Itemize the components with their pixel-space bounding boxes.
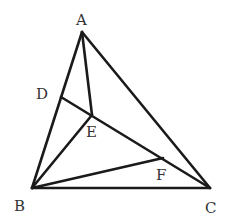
segment-AE [82,32,92,115]
segment-DC [61,97,210,188]
segment-AB [32,32,82,188]
label-F: F [156,166,166,184]
label-C: C [205,199,216,217]
label-B: B [14,197,25,215]
geometry-diagram: A B C D E F [0,0,233,220]
label-D: D [36,85,48,103]
label-A: A [75,11,87,29]
segment-AC [82,32,210,188]
label-E: E [86,123,97,141]
